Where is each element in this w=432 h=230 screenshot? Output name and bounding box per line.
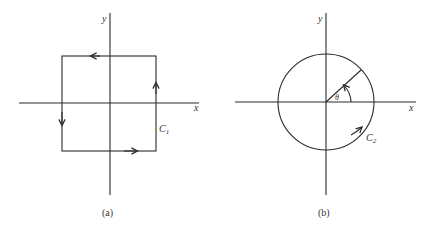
x-axis-label-a: x: [193, 102, 199, 113]
caption-b: (b): [318, 207, 330, 219]
x-axis-label-b: x: [408, 102, 414, 113]
figure-b: y x θ C2 (b): [235, 13, 416, 219]
y-axis-label-a: y: [101, 13, 107, 24]
curve-label-c1: C1: [159, 123, 169, 136]
angle-label-theta: θ: [335, 93, 339, 102]
curve-label-c2: C2: [366, 132, 377, 145]
y-axis-label-b: y: [317, 13, 323, 24]
angle-arc: [345, 86, 352, 102]
diagram-canvas: y x C1 (a) y x θ C2 (b): [0, 0, 432, 230]
arrow-ccw-icon: [351, 128, 361, 135]
figure-a: y x C1 (a): [19, 13, 199, 219]
caption-a: (a): [102, 207, 113, 219]
radius-line: [326, 70, 361, 102]
